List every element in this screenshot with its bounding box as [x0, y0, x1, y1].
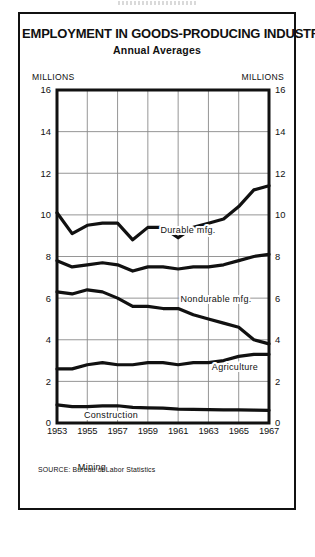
y-tick-labels-right: 0246810121416 — [275, 84, 285, 428]
x-tick-label-1959: 1959 — [138, 425, 158, 436]
y-tick-label-right-8: 8 — [275, 251, 280, 262]
x-tick-label-1957: 1957 — [108, 425, 128, 436]
y-tick-labels-left: 0246810121416 — [41, 84, 51, 428]
x-tick-label-1965: 1965 — [229, 425, 249, 436]
page-edge-artifact — [118, 1, 198, 5]
x-tick-label-1963: 1963 — [198, 425, 218, 436]
y-tick-label-left-8: 8 — [46, 251, 51, 262]
chart-figure-frame: EMPLOYMENT IN GOODS-PRODUCING INDUSTRIES… — [18, 12, 296, 510]
y-tick-label-left-14: 14 — [41, 126, 51, 137]
series-label-durable-mfg: Durable mfg. — [160, 225, 215, 235]
x-tick-label-1955: 1955 — [77, 425, 97, 436]
y-tick-label-left-16: 16 — [41, 84, 51, 95]
x-tick-label-1961: 1961 — [168, 425, 188, 436]
y-tick-label-right-16: 16 — [275, 84, 285, 95]
y-tick-label-right-2: 2 — [275, 376, 280, 387]
series-label-nondurable-mfg: Nondurable mfg. — [180, 294, 251, 304]
y-tick-label-left-12: 12 — [41, 168, 51, 179]
y-tick-label-left-10: 10 — [41, 209, 51, 220]
series-label-construction: Construction — [84, 410, 138, 420]
x-tick-label-1953: 1953 — [47, 425, 67, 436]
y-gridlines — [57, 132, 269, 382]
plot-area: 0246810121416 0246810121416 Durable mfg.… — [20, 14, 298, 512]
source-note: SOURCE: Bureau of Labor Statistics — [38, 466, 155, 473]
y-tick-label-left-2: 2 — [46, 376, 51, 387]
y-tick-label-left-6: 6 — [46, 293, 51, 304]
y-tick-label-right-12: 12 — [275, 168, 285, 179]
y-tick-label-left-4: 4 — [46, 334, 51, 345]
x-axis-tick-labels: 19531955195719591961196319651967 — [20, 425, 298, 443]
y-tick-label-right-10: 10 — [275, 209, 285, 220]
y-tick-label-right-4: 4 — [275, 334, 280, 345]
series-label-agriculture: Agriculture — [212, 362, 258, 372]
x-tick-label-1967: 1967 — [259, 425, 279, 436]
y-tick-label-right-6: 6 — [275, 293, 280, 304]
y-tick-label-right-14: 14 — [275, 126, 285, 137]
